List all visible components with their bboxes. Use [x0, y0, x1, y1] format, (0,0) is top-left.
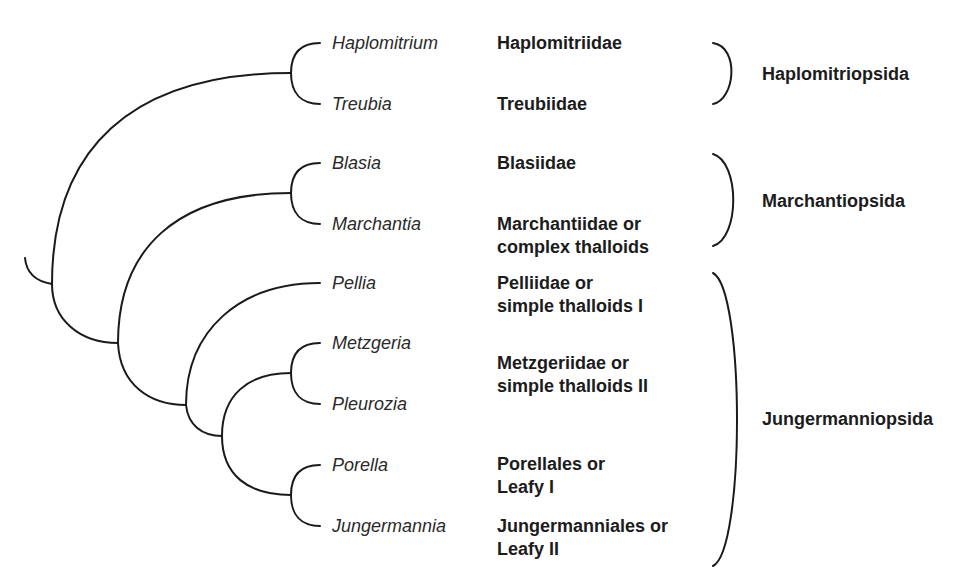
- subclass-line: Marchantiidae or: [497, 213, 649, 236]
- branch-blasia: [291, 163, 320, 193]
- subclass-label-haplomitriidae: Haplomitriidae: [497, 32, 622, 55]
- branch-n2-to-marchantiopsida: [118, 193, 291, 343]
- subclass-label-porellales: Porellales or Leafy I: [497, 453, 605, 499]
- branch-jungermannia: [291, 495, 320, 526]
- branch-n2-to-n3: [118, 343, 186, 405]
- genus-label-pellia: Pellia: [332, 273, 376, 293]
- subclass-label-pelliidae: Pelliidae or simple thalloids I: [497, 272, 643, 318]
- subclass-line: Haplomitriidae: [497, 32, 622, 55]
- subclass-line: Porellales or: [497, 453, 605, 476]
- branch-haplomitrium: [291, 43, 320, 73]
- genus-label-metzgeria: Metzgeria: [332, 333, 411, 353]
- genus-label-pleurozia: Pleurozia: [332, 394, 407, 414]
- subclass-line: Blasiidae: [497, 152, 576, 175]
- class-label-marchantiopsida: Marchantiopsida: [762, 191, 905, 211]
- class-label-jungermanniopsida: Jungermanniopsida: [762, 409, 933, 429]
- branch-root-to-n2: [52, 284, 118, 343]
- genus-label-jungermannia: Jungermannia: [332, 516, 446, 536]
- genus-label-marchantia: Marchantia: [332, 214, 421, 234]
- class-label-haplomitriopsida: Haplomitriopsida: [762, 64, 909, 84]
- subclass-line: simple thalloids II: [497, 375, 648, 398]
- branch-root-to-haplomitriopsida: [52, 73, 291, 284]
- subclass-label-blasiidae: Blasiidae: [497, 152, 576, 175]
- subclass-label-jungermanniales: Jungermanniales or Leafy II: [497, 515, 668, 561]
- subclass-label-marchantiidae: Marchantiidae or complex thalloids: [497, 213, 649, 259]
- subclass-line: Metzgeriidae or: [497, 352, 648, 375]
- branch-pleurozia: [291, 373, 320, 404]
- branch-n4-to-metzgeriidae: [222, 373, 291, 436]
- branch-marchantia: [291, 193, 320, 224]
- bracket-jungermanniopsida: [713, 273, 737, 566]
- subclass-line: simple thalloids I: [497, 295, 643, 318]
- genus-label-porella: Porella: [332, 455, 388, 475]
- subclass-line: Leafy I: [497, 476, 605, 499]
- branch-metzgeria: [291, 343, 320, 373]
- branch-porella: [291, 465, 320, 495]
- bracket-haplomitriopsida: [713, 43, 731, 104]
- bracket-marchantiopsida: [713, 154, 733, 246]
- subclass-line: complex thalloids: [497, 236, 649, 259]
- genus-label-treubia: Treubia: [332, 94, 392, 114]
- subclass-line: Treubiidae: [497, 93, 587, 116]
- cladogram-tree: [0, 0, 969, 584]
- branch-n4-to-leafy: [222, 436, 291, 495]
- genus-label-haplomitrium: Haplomitrium: [332, 33, 438, 53]
- genus-label-blasia: Blasia: [332, 153, 381, 173]
- branch-treubia: [291, 73, 320, 104]
- subclass-line: Pelliidae or: [497, 272, 643, 295]
- subclass-line: Jungermanniales or: [497, 515, 668, 538]
- subclass-label-metzgeriidae: Metzgeriidae or simple thalloids II: [497, 352, 648, 398]
- root-stub: [25, 258, 52, 284]
- subclass-line: Leafy II: [497, 538, 668, 561]
- branch-pellia: [186, 283, 320, 405]
- branch-n3-to-n4: [186, 405, 222, 436]
- subclass-label-treubiidae: Treubiidae: [497, 93, 587, 116]
